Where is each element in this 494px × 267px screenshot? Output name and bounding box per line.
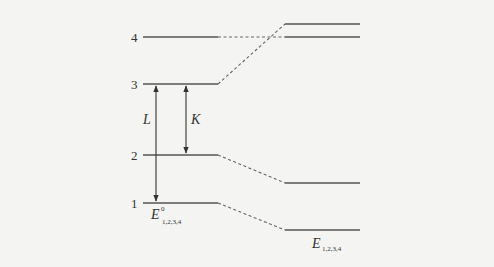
level-number-3: 3 bbox=[131, 77, 138, 92]
level-number-1: 1 bbox=[131, 196, 138, 211]
perturbed-energy-symbol: E bbox=[311, 236, 321, 251]
perturbed-energy-label: E bbox=[311, 236, 321, 251]
level-number-2: 2 bbox=[131, 148, 138, 163]
unperturbed-energy-sup: 0 bbox=[161, 205, 165, 213]
unperturbed-energy-sub: 1,2,3,4 bbox=[162, 218, 182, 226]
connector-2 bbox=[218, 155, 285, 183]
unperturbed-energy-symbol: E bbox=[150, 207, 160, 222]
label-K: K bbox=[190, 112, 201, 127]
label-L: L bbox=[142, 112, 151, 127]
diagram-canvas: 4 3 2 1 L K E 0 1,2,3,4 E 1,2,3,4 bbox=[0, 0, 494, 267]
energy-level-diagram: 4 3 2 1 L K E 0 1,2,3,4 E 1,2,3,4 bbox=[0, 0, 494, 267]
level-number-4: 4 bbox=[131, 30, 138, 45]
connector-1 bbox=[218, 203, 285, 230]
connector-3 bbox=[218, 24, 285, 84]
unperturbed-energy-label: E bbox=[150, 207, 160, 222]
perturbed-energy-sub: 1,2,3,4 bbox=[322, 245, 342, 253]
